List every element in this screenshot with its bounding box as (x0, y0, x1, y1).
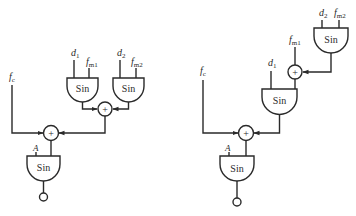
adder-carrier: + (239, 126, 254, 141)
sin-oscillator-mod2: Sin (314, 28, 348, 53)
sin-label: Sin (324, 34, 337, 45)
plus-icon: + (48, 128, 54, 139)
sin-label: Sin (122, 83, 135, 94)
sin-label: Sin (273, 95, 286, 106)
d1-label: d1 (268, 57, 277, 70)
sin-oscillator-mod2: Sin (113, 78, 144, 102)
fm1-label: fm1 (289, 34, 301, 47)
amplitude-label: A (32, 143, 39, 153)
left-diagram: Sin d1 fm1 Sin d2 fm2 + fc + (9, 47, 144, 201)
amplitude-label: A (224, 143, 231, 153)
fm2-label: fm2 (131, 56, 143, 69)
mod2-to-adder-wire (113, 102, 129, 109)
right-diagram: d2 fm2 Sin fm1 + d1 Sin fc (200, 7, 348, 206)
mod1-to-adder-wire (83, 102, 98, 109)
adder-modulators: + (98, 102, 112, 116)
fm-synthesis-diagrams: Sin d1 fm1 Sin d2 fm2 + fc + (0, 0, 356, 216)
mod1-to-carrier-adder-wire (254, 115, 280, 134)
mod2-to-adder-wire (303, 53, 331, 72)
fc-label: fc (9, 71, 15, 84)
fc-to-adder-wire (12, 85, 43, 133)
sin-label: Sin (230, 163, 243, 174)
d2-label: d2 (319, 7, 328, 20)
d1-label: d1 (71, 47, 80, 60)
sin-oscillator-mod1: Sin (262, 89, 297, 114)
plus-icon: + (102, 104, 108, 115)
sin-label: Sin (76, 83, 89, 94)
plus-icon: + (292, 67, 298, 78)
sin-label: Sin (37, 162, 50, 173)
fm1-label: fm1 (86, 56, 98, 69)
sin-oscillator-carrier: Sin (27, 156, 60, 181)
fc-to-adder-wire (203, 80, 238, 133)
sin-oscillator-carrier: Sin (220, 156, 254, 181)
output-terminal (233, 198, 241, 206)
adder-carrier: + (44, 126, 59, 141)
mod-sum-to-carrier-adder-wire (59, 116, 105, 133)
sin-oscillator-mod1: Sin (67, 78, 98, 102)
fm2-label: fm2 (334, 7, 346, 20)
output-terminal (40, 193, 48, 201)
d2-label: d2 (117, 47, 126, 60)
plus-icon: + (243, 128, 249, 139)
fc-label: fc (200, 65, 206, 78)
adder-modulator: + (288, 65, 302, 79)
